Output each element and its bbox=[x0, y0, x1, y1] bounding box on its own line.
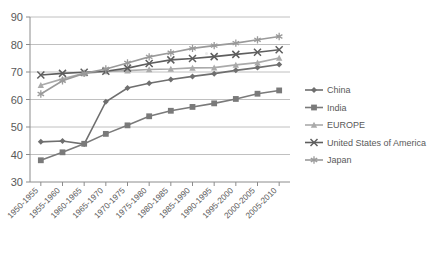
y-axis-label: 60 bbox=[11, 94, 23, 106]
data-point-marker bbox=[168, 76, 174, 82]
legend-item-china[interactable]: China bbox=[305, 85, 351, 95]
legend-item-europe[interactable]: EUROPE bbox=[305, 120, 365, 130]
series-europe bbox=[38, 55, 283, 88]
series-line bbox=[41, 90, 279, 160]
legend-label: India bbox=[327, 103, 347, 113]
series-line bbox=[41, 50, 279, 75]
data-point-marker bbox=[168, 108, 174, 114]
data-point-marker bbox=[255, 65, 261, 71]
series-line bbox=[41, 37, 279, 94]
y-axis-label: 30 bbox=[11, 176, 23, 188]
y-axis-label: 50 bbox=[11, 121, 23, 133]
data-point-marker bbox=[311, 87, 317, 93]
line-chart: 304050607080901950-19551955-19601960-196… bbox=[0, 0, 433, 261]
series-china bbox=[38, 62, 282, 147]
data-point-marker bbox=[81, 141, 87, 147]
chart-canvas: 304050607080901950-19551955-19601960-196… bbox=[0, 0, 433, 261]
data-point-marker bbox=[233, 96, 239, 102]
y-axis-label: 40 bbox=[11, 149, 23, 161]
data-point-marker bbox=[60, 149, 66, 155]
data-point-marker bbox=[276, 88, 282, 94]
legend-item-united-states-of-america[interactable]: United States of America bbox=[305, 138, 426, 148]
legend-label: United States of America bbox=[327, 138, 426, 148]
y-axis-label: 90 bbox=[11, 11, 23, 23]
legend-item-india[interactable]: India bbox=[305, 103, 347, 113]
data-point-marker bbox=[125, 122, 131, 128]
data-point-marker bbox=[255, 91, 261, 97]
data-point-marker bbox=[146, 80, 152, 86]
legend-item-japan[interactable]: Japan bbox=[305, 155, 352, 165]
series-united-states-of-america bbox=[37, 46, 282, 78]
data-point-marker bbox=[276, 62, 282, 68]
data-point-marker bbox=[190, 104, 196, 110]
data-point-marker bbox=[103, 131, 109, 137]
data-point-marker bbox=[233, 67, 239, 73]
legend-label: Japan bbox=[327, 155, 352, 165]
series-japan bbox=[38, 33, 283, 98]
legend-label: EUROPE bbox=[327, 120, 365, 130]
data-point-marker bbox=[146, 113, 152, 119]
data-point-marker bbox=[38, 157, 44, 163]
data-point-marker bbox=[38, 139, 44, 145]
y-axis-label: 80 bbox=[11, 39, 23, 51]
data-point-marker bbox=[211, 100, 217, 106]
y-axis-label: 70 bbox=[11, 66, 23, 78]
series-india bbox=[38, 88, 282, 164]
legend-label: China bbox=[327, 85, 351, 95]
data-point-marker bbox=[190, 73, 196, 79]
data-point-marker bbox=[211, 71, 217, 77]
data-point-marker bbox=[60, 138, 66, 144]
data-point-marker bbox=[311, 105, 317, 111]
data-point-marker bbox=[38, 90, 44, 97]
